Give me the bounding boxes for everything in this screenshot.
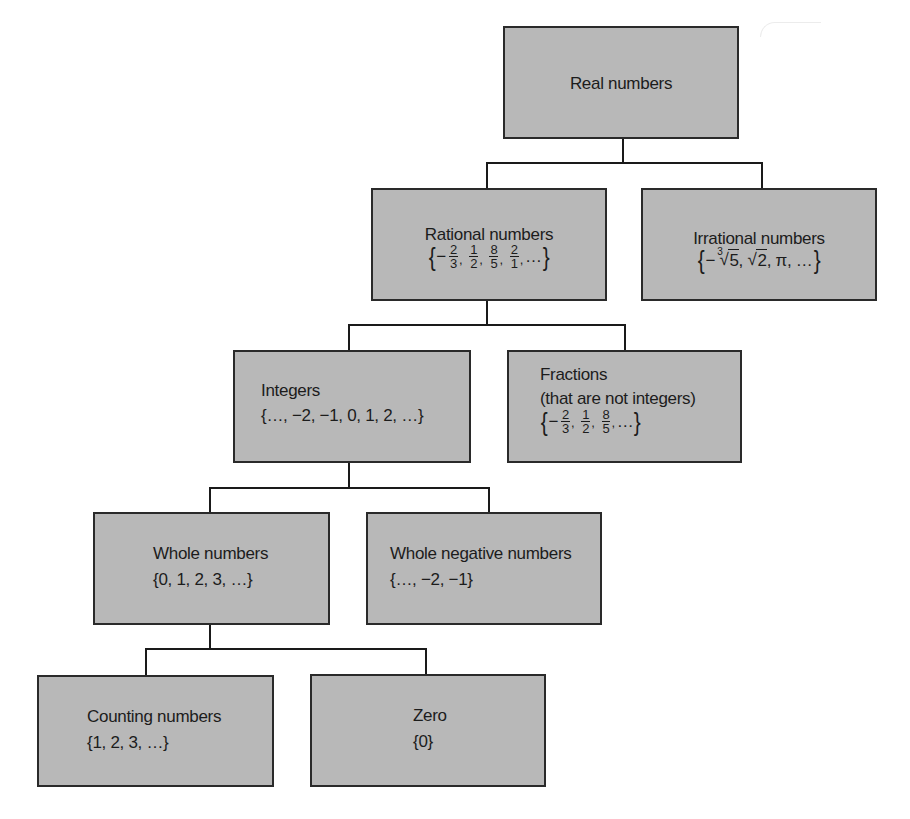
open-brace: { xyxy=(541,409,548,435)
connector-to-whole xyxy=(209,487,211,513)
node-whole-negative-numbers: Whole negative numbers {…, −2, −1} xyxy=(366,512,602,625)
ellipsis: … xyxy=(617,409,634,434)
connector-real-bar xyxy=(486,162,763,164)
node-whole-numbers-label: Whole numbers xyxy=(153,541,268,567)
node-counting-numbers-label: Counting numbers xyxy=(87,704,221,730)
cube-root: 3 √ 5 xyxy=(717,249,738,271)
fraction: 12 xyxy=(469,243,478,270)
connector-real-stem xyxy=(622,138,624,164)
connector-to-zero xyxy=(425,648,427,675)
connector-integers-bar xyxy=(209,487,490,489)
node-counting-numbers-set: {1, 2, 3, …} xyxy=(87,730,221,756)
node-rational-numbers: Rational numbers { − 23, 12, 85, 21, … } xyxy=(371,188,607,301)
minus-sign: − xyxy=(548,409,558,434)
ellipsis: … xyxy=(796,250,813,271)
node-integers-set: {…, −2, −1, 0, 1, 2, …} xyxy=(261,403,423,428)
square-root: √ 2 xyxy=(747,249,766,271)
node-counting-numbers: Counting numbers {1, 2, 3, …} xyxy=(37,675,274,787)
node-irrational-numbers: Irrational numbers { − 3 √ 5 , √ 2 , π, … xyxy=(641,188,877,301)
connector-whole-stem xyxy=(209,624,211,650)
node-zero-label: Zero xyxy=(413,703,447,729)
connector-to-whole-negative xyxy=(488,487,490,513)
node-rational-numbers-label: Rational numbers xyxy=(373,224,605,245)
connector-rational-stem xyxy=(486,300,488,326)
fraction: 21 xyxy=(510,243,519,270)
node-real-numbers-label: Real numbers xyxy=(570,74,672,93)
node-whole-numbers: Whole numbers {0, 1, 2, 3, …} xyxy=(93,512,330,625)
open-brace: { xyxy=(429,244,436,270)
fraction: 12 xyxy=(581,408,590,435)
fraction: 23 xyxy=(561,408,570,435)
scan-artifact xyxy=(760,22,821,37)
node-zero: Zero {0} xyxy=(310,674,546,787)
rational-examples-set: { − 23, 12, 85, 21, … } xyxy=(428,243,550,270)
minus-sign: − xyxy=(436,246,446,267)
connector-whole-bar xyxy=(145,648,427,650)
minus-sign: − xyxy=(706,250,716,271)
close-brace: } xyxy=(634,409,641,435)
node-fractions-label: Fractions xyxy=(540,362,696,387)
close-brace: } xyxy=(813,247,820,273)
node-zero-set: {0} xyxy=(413,729,447,755)
node-real-numbers: Real numbers xyxy=(503,26,739,139)
close-brace: } xyxy=(543,244,550,270)
fraction: 85 xyxy=(489,243,498,270)
irrational-examples-set: { − 3 √ 5 , √ 2 , π, … } xyxy=(697,247,821,273)
connector-to-integers xyxy=(348,324,350,351)
fraction: 85 xyxy=(602,408,611,435)
node-integers: Integers {…, −2, −1, 0, 1, 2, …} xyxy=(233,350,471,463)
connector-to-counting xyxy=(145,648,147,675)
connector-to-fractions xyxy=(624,324,626,351)
connector-to-irrational xyxy=(761,162,763,189)
radical-sign: √ xyxy=(747,249,756,270)
connector-integers-stem xyxy=(348,462,350,488)
pi-symbol: π xyxy=(776,250,787,271)
open-brace: { xyxy=(698,247,705,273)
fractions-examples-set: { − 23, 12, 85, … } xyxy=(540,408,642,435)
node-integers-label: Integers xyxy=(261,378,423,403)
node-fractions: Fractions (that are not integers) { − 23… xyxy=(507,350,742,463)
node-irrational-numbers-label: Irrational numbers xyxy=(643,228,875,249)
node-whole-numbers-set: {0, 1, 2, 3, …} xyxy=(153,567,268,593)
node-whole-negative-numbers-set: {…, −2, −1} xyxy=(390,567,571,593)
node-whole-negative-numbers-label: Whole negative numbers xyxy=(390,541,571,567)
connector-rational-bar xyxy=(348,324,626,326)
connector-to-rational xyxy=(486,162,488,189)
ellipsis: … xyxy=(525,246,542,267)
fraction: 23 xyxy=(449,243,458,270)
